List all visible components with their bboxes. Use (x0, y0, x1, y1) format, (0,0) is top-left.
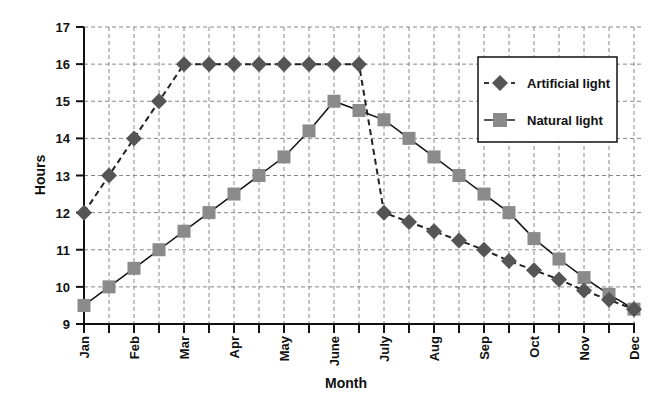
diamond-marker-icon (401, 214, 417, 230)
diamond-marker-icon (526, 262, 542, 278)
square-marker-icon (278, 150, 291, 163)
diamond-marker-icon (251, 56, 267, 72)
square-marker-icon (478, 188, 491, 201)
x-tick-label: June (327, 336, 342, 366)
square-marker-icon (128, 262, 141, 275)
x-tick-label: Dec (627, 336, 642, 360)
diamond-marker-icon (151, 93, 167, 109)
legend-label-artificial: Artificial light (527, 76, 611, 91)
diamond-marker-icon (126, 130, 142, 146)
square-marker-icon (453, 169, 466, 182)
x-tick-label: Oct (527, 335, 542, 357)
square-marker-icon (253, 169, 266, 182)
diamond-marker-icon (176, 56, 192, 72)
x-axis-ticks: JanFebMarAprMayJuneJulyAugSepOctNovDec (77, 324, 642, 366)
x-tick-label: Aug (427, 336, 442, 361)
square-marker-icon (503, 206, 516, 219)
diamond-marker-icon (301, 56, 317, 72)
diamond-marker-icon (351, 56, 367, 72)
diamond-marker-icon (101, 168, 117, 184)
square-marker-icon (353, 104, 366, 117)
square-marker-icon (328, 95, 341, 108)
y-tick-label: 16 (56, 57, 70, 72)
y-tick-label: 10 (56, 280, 70, 295)
x-tick-label: Jan (77, 336, 92, 358)
diamond-marker-icon (451, 232, 467, 248)
square-marker-icon (403, 132, 416, 145)
x-tick-label: Apr (227, 336, 242, 358)
square-marker-icon (528, 232, 541, 245)
diamond-marker-icon (326, 56, 342, 72)
x-tick-label: Sep (477, 336, 492, 360)
x-tick-label: Mar (177, 336, 192, 359)
x-tick-label: Nov (577, 335, 592, 360)
diamond-marker-icon (551, 271, 567, 287)
y-axis-title: Hours (32, 155, 48, 196)
diamond-marker-icon (76, 205, 92, 221)
y-tick-label: 11 (56, 243, 70, 258)
square-marker-icon (428, 150, 441, 163)
x-tick-label: July (377, 335, 392, 362)
diamond-marker-icon (226, 56, 242, 72)
square-marker-icon (303, 124, 316, 137)
y-tick-label: 9 (63, 317, 70, 332)
square-marker-icon (578, 271, 591, 284)
square-marker-icon (493, 113, 507, 127)
line-chart: 91011121314151617 JanFebMarAprMayJuneJul… (0, 0, 670, 409)
y-tick-label: 12 (56, 206, 70, 221)
diamond-marker-icon (476, 242, 492, 258)
square-marker-icon (103, 280, 116, 293)
diamond-marker-icon (501, 253, 517, 269)
y-tick-label: 14 (56, 131, 71, 146)
y-tick-label: 13 (56, 169, 70, 184)
x-tick-label: May (277, 335, 292, 361)
y-axis-ticks: 91011121314151617 (56, 20, 84, 332)
y-tick-label: 17 (56, 20, 70, 35)
diamond-marker-icon (376, 205, 392, 221)
x-tick-label: Feb (127, 336, 142, 359)
legend-box (478, 57, 617, 142)
square-marker-icon (78, 299, 91, 312)
square-marker-icon (378, 113, 391, 126)
square-marker-icon (178, 225, 191, 238)
square-marker-icon (203, 206, 216, 219)
x-axis-title: Month (325, 375, 367, 391)
legend: Artificial light Natural light (478, 57, 617, 142)
legend-label-natural: Natural light (527, 113, 604, 128)
diamond-marker-icon (576, 283, 592, 299)
diamond-marker-icon (426, 223, 442, 239)
diamond-marker-icon (276, 56, 292, 72)
square-marker-icon (228, 188, 241, 201)
square-marker-icon (553, 253, 566, 266)
y-tick-label: 15 (56, 94, 70, 109)
square-marker-icon (153, 243, 166, 256)
diamond-marker-icon (201, 56, 217, 72)
